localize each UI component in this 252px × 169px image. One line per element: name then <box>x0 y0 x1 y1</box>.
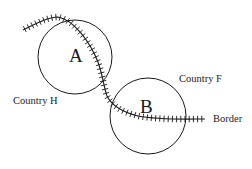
circle-b-label: B <box>140 97 153 116</box>
country-h-label: Country H <box>13 96 58 107</box>
circle-a-label: A <box>69 46 83 65</box>
country-f-label: Country F <box>179 74 222 85</box>
border-diagram <box>0 0 252 169</box>
border-label: Border <box>213 114 242 125</box>
